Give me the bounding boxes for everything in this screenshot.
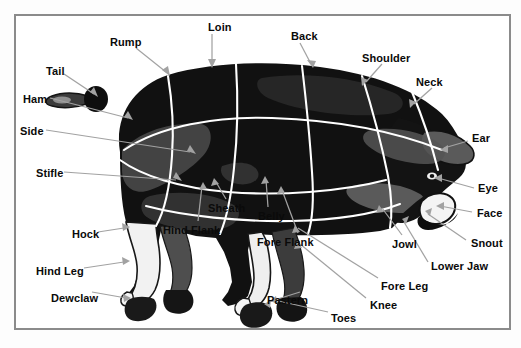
label-shoulder: Shoulder — [362, 53, 410, 64]
label-fore-flank: Fore Flank — [257, 237, 314, 248]
label-back: Back — [291, 31, 318, 42]
label-hind-leg: Hind Leg — [36, 266, 84, 277]
label-belly: Belly — [258, 211, 285, 222]
diagram-canvas: Loin Back Rump Shoulder Tail Neck Ham Si… — [0, 0, 521, 348]
label-face: Face — [477, 208, 502, 219]
label-hock: Hock — [72, 229, 99, 240]
label-knee: Knee — [370, 300, 397, 311]
label-snout: Snout — [471, 238, 503, 249]
label-tail: Tail — [46, 66, 65, 77]
label-fore-leg: Fore Leg — [381, 281, 428, 292]
label-rump: Rump — [110, 37, 142, 48]
label-hind-flank: Hind Flank — [163, 225, 220, 236]
label-ham: Ham — [23, 94, 47, 105]
label-lower-jaw: Lower Jaw — [431, 261, 488, 272]
label-loin: Loin — [208, 22, 232, 33]
label-eye: Eye — [478, 183, 498, 194]
label-toes: Toes — [331, 313, 356, 324]
label-dewclaw: Dewclaw — [51, 293, 98, 304]
label-jowl: Jowl — [392, 239, 417, 250]
label-pastern: Pastern — [267, 295, 308, 306]
label-ear: Ear — [472, 133, 490, 144]
label-sheath: Sheath — [208, 203, 245, 214]
label-neck: Neck — [416, 77, 443, 88]
label-side: Side — [20, 126, 44, 137]
label-stifle: Stifle — [36, 168, 64, 179]
